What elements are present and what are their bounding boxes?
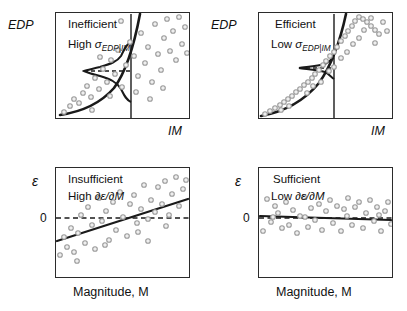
panel-bottom-left-xlabel: Magnitude, M: [73, 285, 149, 299]
panel-bottom-left-subtitle: High ∂ε/∂M: [68, 190, 124, 203]
panel-bottom-right: ε 0: [203, 155, 407, 311]
panel-bottom-left-xlabel-text: Magnitude, M: [73, 285, 149, 299]
panel-bottom-right-subtitle: Low ∂ε/∂M: [271, 190, 325, 203]
panel-top-right-xlabel: IM: [371, 124, 385, 138]
panel-bottom-right-subtitle-symbol: ∂ε/∂M: [295, 190, 324, 202]
panel-top-left-subtitle: High σEDP|IM: [68, 38, 130, 55]
panel-top-left-subtitle-subscript: EDP|IM: [102, 44, 130, 53]
panel-bottom-right-subtitle-prefix: Low: [271, 190, 295, 202]
panel-top-right-subtitle: Low σEDP|IM: [271, 38, 331, 55]
panel-bottom-left-title: Insufficient: [68, 173, 123, 186]
panel-top-left-subtitle-prefix: High: [68, 38, 95, 50]
panel-top-left-subtitle-symbol: σ: [95, 38, 102, 50]
figure-root: EDP: [0, 0, 407, 311]
panel-top-left: EDP: [0, 0, 203, 155]
panel-bottom-left-subtitle-symbol: ∂ε/∂M: [95, 190, 124, 202]
panel-top-right-subtitle-subscript: EDP|IM: [302, 44, 330, 53]
panel-top-left-title: Inefficient: [68, 18, 117, 31]
panel-bottom-left: ε 0: [0, 155, 203, 311]
panel-bottom-right-xlabel-text: Magnitude, M: [276, 285, 352, 299]
panel-bottom-left-subtitle-prefix: High: [68, 190, 95, 202]
panel-top-left-xlabel: IM: [168, 124, 182, 138]
panel-top-right-subtitle-prefix: Low: [271, 38, 295, 50]
panel-bottom-right-xlabel: Magnitude, M: [276, 285, 352, 299]
panel-bottom-right-title: Sufficient: [273, 173, 320, 186]
panel-top-right-title: Efficient: [275, 18, 316, 31]
panel-top-right: EDP: [203, 0, 407, 155]
